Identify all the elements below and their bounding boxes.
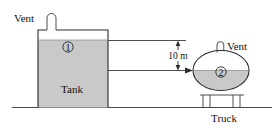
tank-liquid [38,40,108,108]
tank-truck-diagram: Vent 1 Tank 10 m 2 Ve [0,0,278,131]
station-one-number: 1 [66,42,71,53]
truck-label: Truck [211,112,237,124]
tank-label: Tank [61,83,83,95]
tank-vapor-space [38,30,108,40]
truck-vent-label: Vent [227,40,247,52]
height-dimension-label: 10 m [168,51,188,61]
tank-vent-label: Vent [14,12,34,24]
station-two-number: 2 [219,67,224,78]
diagram-canvas: Vent 1 Tank 10 m 2 Ve [0,0,278,131]
dimension-upper-arrowhead [176,41,181,47]
dimension-lower-arrowhead [176,65,181,71]
discharge-flow-arrowhead [185,67,193,73]
tank-vent-pipe-icon [47,14,56,31]
